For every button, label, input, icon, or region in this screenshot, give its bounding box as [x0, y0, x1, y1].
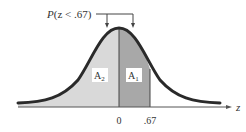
axis-arrow-icon	[226, 105, 232, 109]
normal-distribution-diagram: z 0 .67 A2 A1 P(z < .67)	[0, 0, 246, 132]
probability-label: P(z < .67)	[46, 8, 92, 21]
region-a2	[18, 28, 119, 107]
tick-label-cutoff: .67	[144, 115, 157, 126]
arrow-down-icon-left	[105, 23, 109, 28]
arrow-down-icon-right	[131, 23, 135, 28]
annotation-bracket	[96, 14, 133, 24]
tick-label-zero: 0	[117, 115, 122, 126]
axis-label: z	[235, 101, 241, 113]
